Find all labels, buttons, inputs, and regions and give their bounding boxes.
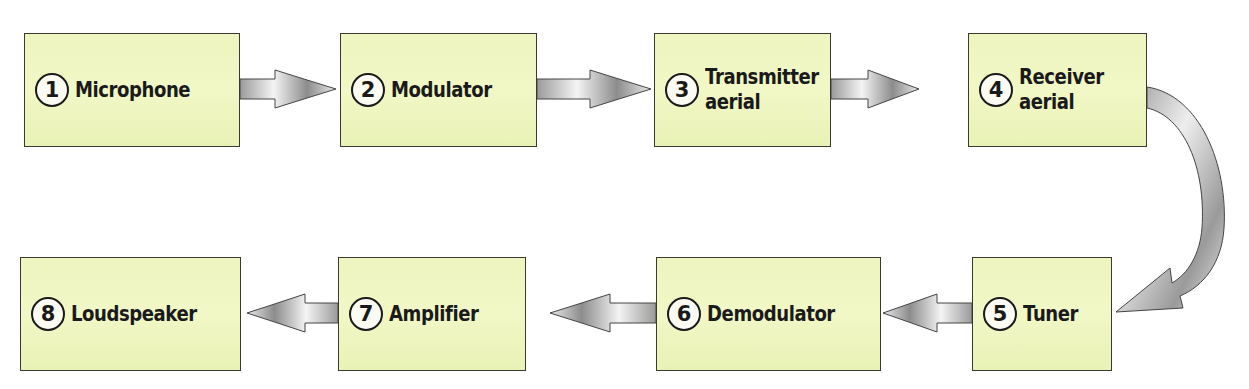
step-number-badge: 8: [31, 297, 65, 331]
step-number-badge: 7: [349, 297, 383, 331]
block-label: Modulator: [391, 78, 492, 103]
step-number-badge: 5: [983, 297, 1017, 331]
block-label: Transmitter aerial: [705, 65, 819, 115]
block-label-line2: aerial: [1019, 90, 1104, 115]
block-label: Demodulator: [707, 302, 835, 327]
arrow-7-to-8: [247, 294, 338, 332]
block-label: Microphone: [75, 78, 190, 103]
step-number-badge: 4: [979, 73, 1013, 107]
step-number-badge: 2: [351, 73, 385, 107]
block-receiver-aerial: 4 Receiver aerial: [968, 33, 1147, 147]
arrow-3-to-4: [831, 70, 919, 108]
block-label-line2: aerial: [705, 90, 819, 115]
step-number-badge: 3: [665, 73, 699, 107]
block-label-line1: Receiver: [1019, 65, 1104, 90]
block-microphone: 1 Microphone: [24, 33, 240, 147]
step-number-badge: 6: [667, 297, 701, 331]
block-transmitter-aerial: 3 Transmitter aerial: [654, 33, 831, 147]
arrow-5-to-6: [883, 294, 972, 332]
block-label: Tuner: [1023, 302, 1078, 327]
block-loudspeaker: 8 Loudspeaker: [20, 257, 241, 371]
block-label: Amplifier: [389, 302, 478, 327]
block-modulator: 2 Modulator: [340, 33, 537, 147]
block-label: Loudspeaker: [71, 302, 197, 327]
arrow-2-to-3: [537, 70, 651, 108]
arrow-6-to-7: [550, 294, 656, 332]
block-label-line1: Transmitter: [705, 65, 819, 90]
step-number-badge: 1: [35, 73, 69, 107]
block-amplifier: 7 Amplifier: [338, 257, 526, 371]
block-tuner: 5 Tuner: [972, 257, 1112, 371]
arrow-1-to-2: [240, 70, 336, 108]
block-demodulator: 6 Demodulator: [656, 257, 881, 371]
block-label: Receiver aerial: [1019, 65, 1104, 115]
